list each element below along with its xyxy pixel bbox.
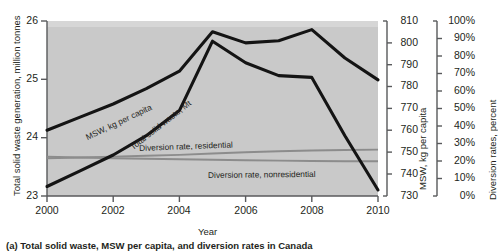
x-tick-label-2004: 2004 xyxy=(159,204,199,216)
series-line-diversion-nonresidential xyxy=(47,157,378,162)
msw-tick-label-780: 780 xyxy=(394,79,418,91)
series-line-total-solid-waste xyxy=(47,41,378,190)
diversion-tick-label-50: 50% xyxy=(444,101,475,113)
series-label-diversion-nonresidential: Diversion rate, nonresidential xyxy=(208,169,316,180)
left-axis-title: Total solid waste generation, million to… xyxy=(11,15,22,196)
diversion-tick-label-20: 20% xyxy=(444,154,475,166)
figure-caption: (a) Total solid waste, MSW per capita, a… xyxy=(6,240,492,251)
msw-axis-title: MSW, kg per capita xyxy=(417,108,428,190)
x-tick-label-2008: 2008 xyxy=(292,204,332,216)
diversion-axis-title: Diversion rates, percent xyxy=(487,100,498,200)
diversion-tick-label-30: 30% xyxy=(444,136,475,148)
msw-tick-label-750: 750 xyxy=(394,145,418,157)
msw-tick-label-760: 760 xyxy=(394,123,418,135)
diversion-axis xyxy=(433,21,442,196)
diversion-tick-label-10: 10% xyxy=(444,171,475,183)
diversion-tick-label-0: 0% xyxy=(444,189,475,201)
x-tick-label-2010: 2010 xyxy=(358,204,398,216)
msw-tick-label-770: 770 xyxy=(394,101,418,113)
x-axis xyxy=(47,196,378,202)
diversion-tick-label-100: 100% xyxy=(444,14,475,26)
diversion-tick-label-80: 80% xyxy=(444,49,475,61)
diversion-tick-label-40: 40% xyxy=(444,119,475,131)
x-tick-label-2000: 2000 xyxy=(27,204,67,216)
msw-tick-label-810: 810 xyxy=(394,14,418,26)
diversion-tick-label-90: 90% xyxy=(444,31,475,43)
msw-tick-label-790: 790 xyxy=(394,58,418,70)
x-axis-title: Year xyxy=(198,226,217,237)
msw-axis xyxy=(383,21,392,196)
x-tick-label-2002: 2002 xyxy=(93,204,133,216)
left-axis xyxy=(41,21,47,196)
x-tick-label-2006: 2006 xyxy=(226,204,266,216)
diversion-tick-label-70: 70% xyxy=(444,66,475,78)
msw-tick-label-740: 740 xyxy=(394,167,418,179)
msw-tick-label-800: 800 xyxy=(394,36,418,48)
msw-tick-label-730: 730 xyxy=(394,189,418,201)
diversion-tick-label-60: 60% xyxy=(444,84,475,96)
